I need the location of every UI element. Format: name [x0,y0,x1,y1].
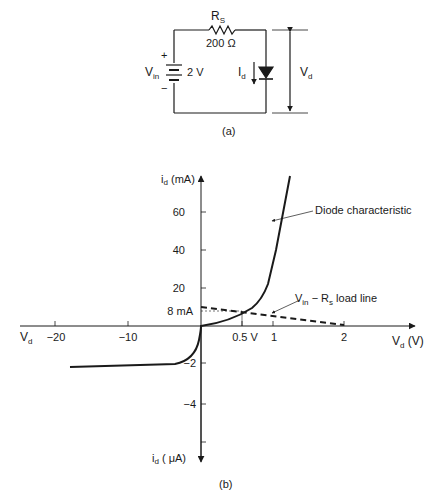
y-axis-top-label: id (mA) [161,173,195,187]
y-tick-label-60: 60 [173,206,185,218]
x-tick-label-1: 1 [271,331,277,343]
current-label: Id [238,65,246,81]
minus-sign: − [161,82,167,94]
diode-annotation-leader [272,211,313,221]
caption-a: (a) [222,125,235,137]
y-tick-label-neg2: −2 [183,357,196,369]
voltage-label: Vd [300,65,312,81]
diode-symbol [259,67,273,78]
y-marker-8ma: 8 mA [167,305,193,317]
x-tick-label-0-5v: 0.5 V [232,331,258,343]
x-axis-left-label: Vd [20,330,32,346]
plus-sign: + [161,49,167,61]
x-axis-right-label: Vd (V) [392,334,424,350]
caption-b: (b) [219,478,232,490]
y-tick-label-20: 20 [173,282,185,294]
resistor-rs [209,26,235,34]
x-tick-label-2: 2 [341,331,347,343]
graph-b [20,176,415,462]
y-tick-label-neg4: −4 [183,398,196,410]
source-value: 2 V [187,66,204,78]
diode-characteristic-annotation: Diode characteristic [315,204,412,216]
diagram-canvas: RS 200 Ω + − Vin 2 V Id Vd (a) [0,0,439,498]
y-tick-label-40: 40 [173,244,185,256]
load-line-annotation: Vin − Rs load line [295,292,377,307]
x-tick-label-neg10: −10 [119,331,138,343]
x-tick-label-neg20: −20 [47,331,66,343]
resistor-value: 200 Ω [206,37,236,49]
resistor-label: RS [211,9,225,25]
source-label: Vin [145,65,159,81]
y-axis-bottom-label: id ( μA) [152,452,186,466]
